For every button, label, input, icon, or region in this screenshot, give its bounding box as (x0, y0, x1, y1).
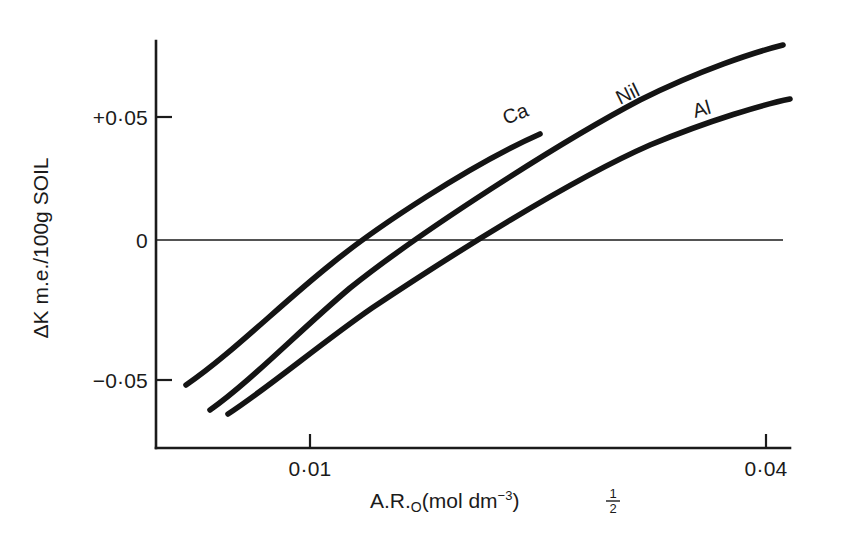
line-chart: +0·05 0 −0·05 0·01 0·04 ΔK m.e./100g SOI… (0, 0, 841, 536)
x-axis-title-close: ) (512, 489, 519, 512)
x-axis-title-prefix: A.R. (370, 489, 411, 512)
x-axis-title-superscript: −3 (498, 488, 513, 503)
x-axis-title: A.R.O(mol dm−3) (370, 488, 519, 515)
curve-label-al: Al (690, 96, 713, 122)
figure-container: +0·05 0 −0·05 0·01 0·04 ΔK m.e./100g SOI… (0, 0, 841, 536)
y-tick-label-top: +0·05 (93, 106, 148, 129)
x-axis-title-mid: (mol dm (422, 489, 498, 512)
curve-ca (186, 134, 540, 385)
y-tick-label-bottom: −0·05 (93, 369, 148, 392)
curve-label-ca: Ca (499, 98, 532, 128)
y-axis-title: ΔK m.e./100g SOIL (29, 158, 52, 339)
x-tick-label-0-01: 0·01 (289, 457, 332, 480)
fraction-numerator: 1 (609, 486, 616, 501)
x-axis-title-subscript: O (411, 499, 422, 515)
x-axis-title-half-fraction: 1 2 (606, 486, 620, 516)
fraction-denominator: 2 (609, 501, 616, 516)
x-tick-label-0-04: 0·04 (745, 457, 788, 480)
y-tick-label-zero: 0 (136, 229, 148, 252)
